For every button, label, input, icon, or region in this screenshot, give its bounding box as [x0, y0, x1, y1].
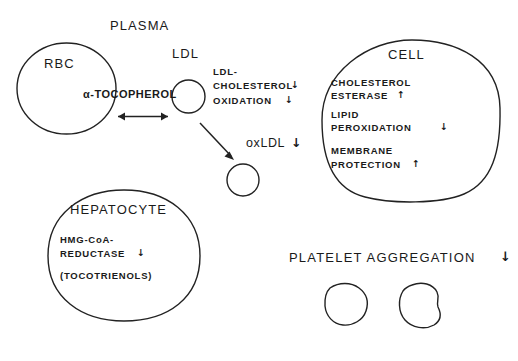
platelet-aggregation-down-arrow-icon: ↓ [500, 250, 512, 264]
hepatocyte-line-reductase: REDUCTASE [60, 249, 125, 259]
cell-label: CELL [388, 48, 425, 62]
ldl-particle-outline [172, 80, 205, 113]
hepatocyte-reductase-down-arrow-icon: ↓ [137, 248, 146, 258]
platelet-aggregation-label: PLATELET AGGREGATION [289, 251, 476, 265]
cell-line-cholesterol: CHOLESTEROL [331, 78, 411, 88]
cell-line-protection: PROTECTION [331, 160, 401, 170]
cell-line-esterase: ESTERASE [331, 91, 388, 101]
tocopherol-exchange-arrow [118, 113, 168, 121]
cell-peroxidation-down-arrow-icon: ↓ [440, 122, 449, 132]
plasma-heading: PLASMA [110, 19, 169, 33]
ldl-oxidation-down-arrow-icon: ↓ [285, 95, 294, 105]
oxldl-label: oxLDL [246, 137, 285, 151]
cell-outline [322, 40, 500, 202]
ldl-oxidation-line3: OXIDATION [213, 96, 272, 106]
platelet-shape-1 [325, 284, 367, 326]
platelet-shape-2 [399, 283, 440, 327]
cell-line-peroxidation: PEROXIDATION [331, 123, 412, 133]
alpha-tocopherol-label: α-TOCOPHEROL [83, 89, 177, 101]
ldl-cholesterol-down-arrow-icon: ↓ [291, 80, 300, 90]
cell-esterase-up-arrow-icon: ↑ [397, 90, 406, 100]
cell-protection-up-arrow-icon: ↑ [412, 159, 421, 169]
oxldl-particle-outline [227, 164, 259, 196]
cell-line-membrane: MEMBRANE [331, 146, 393, 156]
oxldl-down-arrow-icon: ↓ [291, 136, 302, 150]
hepatocyte-line-tocotrienols: (TOCOTRIENOLS) [60, 271, 152, 281]
hepatocyte-label: HEPATOCYTE [70, 203, 167, 217]
rbc-label: RBC [44, 57, 75, 71]
cell-line-lipid: LIPID [331, 110, 359, 120]
ldl-cholesterol-line1: LDL- [213, 67, 238, 77]
diagram-canvas: PLASMA RBC α-TOCOPHEROL LDL LDL- CHOLEST… [0, 0, 518, 361]
diagram-vector-layer [0, 0, 518, 361]
ldl-cholesterol-line2: CHOLESTEROL [213, 81, 293, 91]
ldl-label: LDL [172, 47, 199, 61]
hepatocyte-line-hmgcoa: HMG-CoA- [60, 235, 114, 245]
oxidation-arrow [200, 123, 234, 160]
